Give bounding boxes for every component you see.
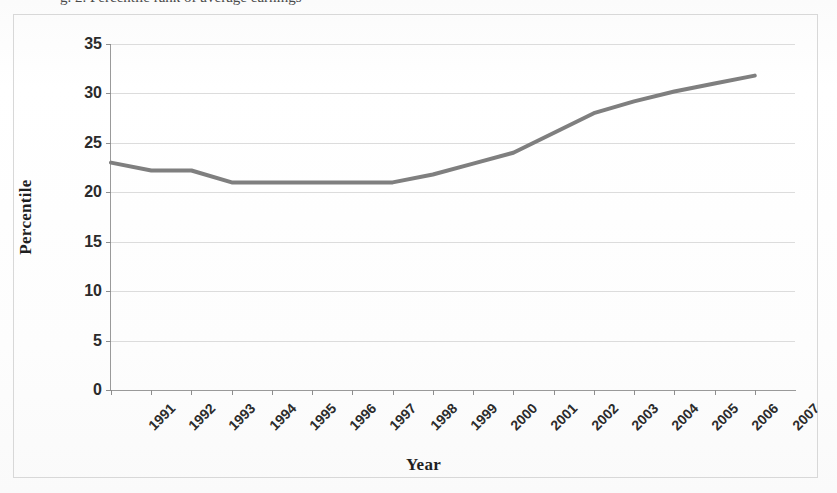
y-tick-label-25: 25 bbox=[84, 135, 102, 151]
x-tick-1991 bbox=[111, 390, 112, 395]
x-tick-1999 bbox=[433, 390, 434, 395]
y-axis-title: Percentile bbox=[16, 179, 36, 254]
figure-caption-remnant: g. 2. Percentile rank of average earning… bbox=[0, 0, 837, 10]
x-axis-title: Year bbox=[0, 455, 837, 475]
y-tick-label-10: 10 bbox=[84, 283, 102, 299]
x-tick-2003 bbox=[594, 390, 595, 395]
x-tick-1992 bbox=[151, 390, 152, 395]
x-tick-1998 bbox=[393, 390, 394, 395]
x-tick-2000 bbox=[473, 390, 474, 395]
x-tick-2001 bbox=[513, 390, 514, 395]
y-tick-label-5: 5 bbox=[93, 333, 102, 349]
x-tick-2007 bbox=[755, 390, 756, 395]
y-tick-label-35: 35 bbox=[84, 36, 102, 52]
x-axis-title-text: Year bbox=[406, 455, 441, 474]
y-tick-label-30: 30 bbox=[84, 85, 102, 101]
x-tick-2005 bbox=[674, 390, 675, 395]
x-tick-1995 bbox=[272, 390, 273, 395]
y-tick-label-0: 0 bbox=[93, 382, 102, 398]
caption-remnant-left-text: g. 2. Percentile rank of average earning… bbox=[60, 0, 302, 6]
x-tick-1994 bbox=[232, 390, 233, 395]
x-tick-1996 bbox=[312, 390, 313, 395]
x-tick-1993 bbox=[191, 390, 192, 395]
x-tick-1997 bbox=[352, 390, 353, 395]
x-axis-line bbox=[110, 390, 796, 391]
chart-plot-area: 05101520253035 1991199219931994199519961… bbox=[111, 44, 795, 390]
x-tick-2006 bbox=[715, 390, 716, 395]
line-series-percentile bbox=[111, 44, 795, 390]
x-tick-2004 bbox=[634, 390, 635, 395]
y-tick-label-15: 15 bbox=[84, 234, 102, 250]
y-tick-label-20: 20 bbox=[84, 184, 102, 200]
x-tick-2002 bbox=[554, 390, 555, 395]
